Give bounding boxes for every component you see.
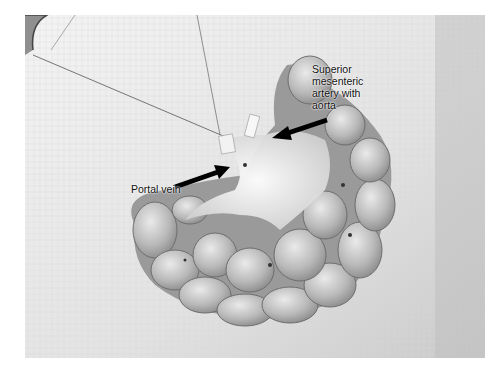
- label-superior-mesenteric-artery: Superior mesenteric artery with aorta: [312, 63, 402, 111]
- sma-arrow-icon: [272, 120, 327, 140]
- label-portal-vein: Portal vein: [131, 183, 181, 195]
- annotation-arrows: [0, 0, 502, 371]
- pv-arrow-icon: [175, 165, 230, 187]
